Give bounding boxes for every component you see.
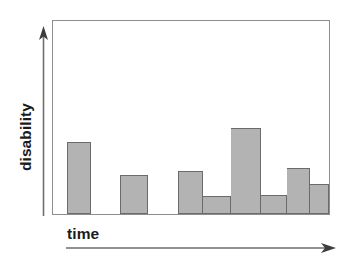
y-axis-label: disability	[17, 88, 35, 186]
disability-over-time-figure: disability time	[0, 0, 351, 269]
bar-segment	[261, 195, 287, 214]
bar-segment	[310, 184, 329, 214]
right-arrow-icon	[66, 240, 336, 256]
bar-segment	[287, 168, 310, 215]
plot-area	[52, 20, 330, 215]
x-axis-arrow	[66, 240, 336, 256]
y-axis-arrow	[36, 26, 51, 216]
bar-segment	[203, 196, 231, 214]
bar-segment	[231, 128, 262, 214]
bars-layer	[53, 21, 329, 214]
bar-segment	[178, 171, 203, 214]
bar-segment	[67, 142, 91, 214]
bar-segment	[120, 175, 149, 214]
up-arrow-icon	[36, 26, 51, 216]
